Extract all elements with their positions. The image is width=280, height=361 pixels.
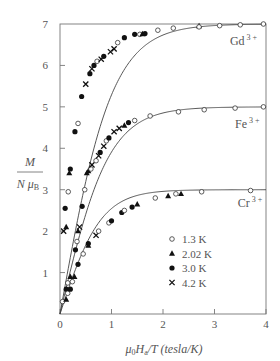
data-point (130, 205, 135, 210)
data-point (87, 71, 92, 76)
legend-label: 4.2 K (182, 277, 207, 289)
data-points (60, 22, 265, 304)
y-tick-label: 7 (43, 18, 49, 30)
data-point (106, 135, 111, 140)
y-tick-label: 3 (43, 184, 49, 196)
data-point (122, 208, 127, 213)
data-point (169, 280, 174, 285)
x-label: μ0Ha/T (tesla/K) (124, 342, 202, 357)
data-point (75, 239, 80, 244)
data-point (96, 229, 101, 234)
x-tick-label: 0 (57, 318, 63, 330)
data-point (134, 201, 140, 206)
data-point (76, 121, 81, 126)
data-point (171, 26, 176, 31)
magnetization-chart: 012341234567 Gd3 +Fe3 +Cr3 + 1.3 K2.02 K… (0, 0, 280, 361)
data-point (217, 23, 222, 28)
ion-label: Gd3 + (230, 33, 258, 48)
legend-item: 4.2 K (169, 277, 206, 289)
data-point (261, 105, 266, 110)
data-point (174, 192, 179, 197)
legend-label: 1.3 K (182, 233, 207, 245)
x-tick-label: 2 (160, 318, 166, 330)
data-point (82, 187, 87, 192)
data-point (148, 114, 153, 119)
y-label-denominator: N μB (16, 177, 39, 192)
legend-label: 2.02 K (182, 248, 212, 260)
y-tick-label: 4 (43, 142, 49, 154)
data-point (176, 110, 181, 115)
data-point (132, 118, 137, 123)
data-point (109, 218, 114, 223)
data-point (142, 31, 147, 36)
y-tick-label: 1 (43, 267, 49, 279)
data-point (117, 126, 122, 131)
legend-item: 3.0 K (169, 262, 206, 274)
data-point (169, 250, 175, 255)
data-point (101, 144, 106, 149)
data-point (122, 35, 127, 40)
data-point (65, 291, 70, 296)
y-tick-label: 6 (43, 59, 49, 71)
ion-labels: Gd3 +Fe3 +Cr3 + (230, 33, 263, 210)
x-tick-label: 4 (263, 318, 269, 330)
data-point (202, 107, 207, 112)
data-point (156, 28, 161, 33)
data-point (199, 189, 204, 194)
data-point (63, 206, 68, 211)
y-axis-label: M N μB (16, 155, 43, 192)
data-point (170, 237, 175, 242)
data-point (71, 274, 77, 279)
y-tick-label: 2 (43, 225, 49, 237)
data-point (261, 22, 266, 27)
data-point (238, 23, 243, 28)
ion-label: Cr3 + (238, 195, 263, 210)
data-point (68, 287, 73, 292)
y-tick-label: 5 (43, 101, 49, 113)
data-point (70, 279, 75, 284)
data-point (80, 204, 85, 209)
data-point (126, 120, 131, 125)
x-axis-label: μ0Ha/T (tesla/K) (124, 342, 202, 357)
data-point (248, 188, 253, 193)
legend-label: 3.0 K (182, 262, 207, 274)
legend: 1.3 K2.02 K3.0 K4.2 K (169, 233, 212, 289)
data-point (111, 46, 116, 51)
data-point (233, 106, 238, 111)
data-point (178, 191, 184, 196)
data-point (68, 166, 73, 171)
y-label-numerator: M (24, 155, 36, 169)
axis-ticks: 012341234567 (43, 18, 270, 330)
x-tick-label: 3 (212, 318, 218, 330)
data-point (115, 40, 120, 45)
data-point (65, 281, 70, 286)
data-point (73, 247, 78, 252)
ion-label: Fe3 + (235, 116, 260, 131)
data-point (94, 158, 99, 163)
data-point (66, 189, 71, 194)
data-point (81, 252, 86, 257)
data-point (77, 224, 82, 229)
legend-item: 2.02 K (169, 248, 212, 260)
data-point (197, 25, 202, 30)
data-point (169, 265, 174, 270)
data-point (101, 54, 106, 59)
x-tick-label: 1 (109, 318, 115, 330)
data-point (98, 150, 103, 155)
data-point (153, 196, 158, 201)
data-point (72, 129, 77, 134)
data-point (132, 32, 137, 37)
data-point (83, 81, 88, 86)
data-point (165, 193, 171, 198)
fit-curve (60, 190, 266, 314)
data-point (79, 94, 84, 99)
fit-curve (60, 107, 266, 314)
legend-item: 1.3 K (170, 233, 207, 245)
data-point (111, 129, 116, 134)
data-point (75, 262, 80, 267)
data-point (63, 224, 69, 229)
